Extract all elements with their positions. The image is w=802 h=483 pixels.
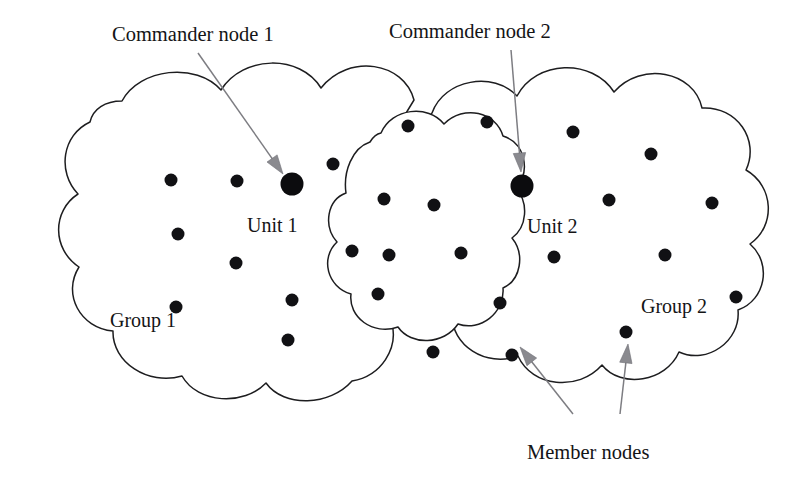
member-nodes-label: Member nodes xyxy=(527,441,649,463)
unit-1-label: Unit 1 xyxy=(247,214,298,236)
unit-2-label: Unit 2 xyxy=(527,215,578,237)
member-node xyxy=(620,326,633,339)
member-node xyxy=(165,174,178,187)
member-node xyxy=(603,194,616,207)
commander-node-2 xyxy=(511,175,534,198)
member-node xyxy=(402,120,415,133)
member-node xyxy=(506,349,519,362)
member-node xyxy=(282,334,295,347)
member-node xyxy=(548,251,561,264)
topology-diagram-canvas: Commander node 1 Commander node 2 Unit 1… xyxy=(0,0,802,483)
member-node xyxy=(494,297,507,310)
commander-node-1 xyxy=(281,173,304,196)
member-node xyxy=(172,228,185,241)
member-node xyxy=(645,148,658,161)
member-node xyxy=(730,291,743,304)
commander-node-2-label: Commander node 2 xyxy=(389,20,551,42)
member-node xyxy=(567,126,580,139)
group-1-label: Group 1 xyxy=(110,309,176,332)
member-node xyxy=(378,193,391,206)
member-node xyxy=(427,346,440,359)
member-node xyxy=(455,247,468,260)
member-node xyxy=(481,116,494,129)
member-node xyxy=(230,257,243,270)
diagram-root: Commander node 1 Commander node 2 Unit 1… xyxy=(0,0,802,483)
commander-node-1-label: Commander node 1 xyxy=(112,23,274,45)
member-node xyxy=(286,294,299,307)
member-node xyxy=(346,245,359,258)
member-node xyxy=(706,197,719,210)
member-node xyxy=(372,288,385,301)
group-2-label: Group 2 xyxy=(641,295,707,318)
member-node xyxy=(383,249,396,262)
member-node xyxy=(428,199,441,212)
member-node xyxy=(327,158,340,171)
member-node xyxy=(659,249,672,262)
member-node xyxy=(231,175,244,188)
